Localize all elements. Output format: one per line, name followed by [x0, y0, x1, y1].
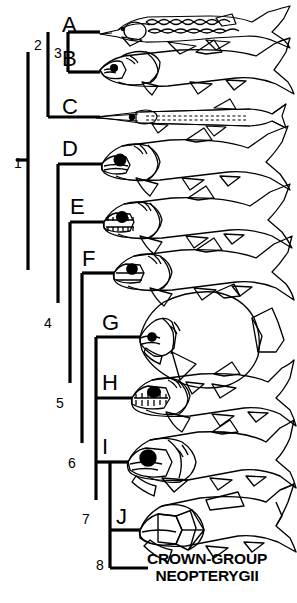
fish-C-elongate	[96, 99, 286, 136]
fish-A-sturgeon	[100, 6, 290, 54]
taxon-label-A: A	[62, 14, 77, 36]
node-number-7: 7	[82, 512, 90, 526]
fish-I-large-eye	[128, 420, 297, 496]
node-number-8: 8	[96, 558, 104, 572]
taxon-label-D: D	[62, 138, 78, 160]
crown-group-caption: CROWN-GROUP NEOPTERYGII	[118, 550, 296, 585]
taxon-label-G: G	[102, 312, 119, 334]
fish-H-pike	[132, 360, 297, 432]
fish-illustrations	[0, 0, 297, 603]
node-number-6: 6	[68, 456, 76, 470]
node-number-4: 4	[44, 316, 52, 330]
taxon-label-H: H	[102, 372, 118, 394]
fish-B-robust	[100, 38, 294, 95]
fish-D-predator	[102, 126, 291, 196]
cladogram-figure: ABCDEFGHIJ12345678 CROWN-GROUP NEOPTERYG…	[0, 0, 297, 603]
taxon-label-J: J	[116, 506, 127, 528]
taxon-label-E: E	[70, 196, 85, 218]
fish-E-toothy	[104, 184, 293, 254]
crown-group-line2: NEOPTERYGII	[118, 567, 296, 584]
taxon-label-C: C	[62, 96, 78, 118]
fish-F-trout	[114, 236, 295, 306]
fish-G-deep-body	[140, 284, 284, 398]
node-number-1: 1	[14, 156, 22, 170]
taxon-label-I: I	[102, 436, 108, 458]
taxon-label-F: F	[82, 248, 95, 270]
node-number-5: 5	[56, 396, 64, 410]
node-number-2: 2	[34, 38, 42, 52]
taxon-label-B: B	[62, 48, 77, 70]
crown-group-line1: CROWN-GROUP	[118, 550, 296, 567]
node-number-3: 3	[54, 46, 62, 60]
